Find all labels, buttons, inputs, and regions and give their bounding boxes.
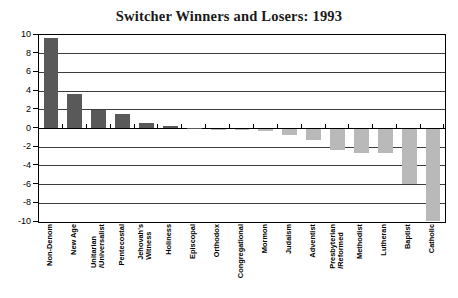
x-axis-label-text: Episcopal [189, 224, 197, 259]
x-axis-label-text: New Age [70, 224, 78, 255]
y-tick-mark [33, 164, 38, 165]
x-tick-mark [420, 124, 421, 128]
gridline-8 [39, 53, 445, 54]
y-tick-label: 8 [0, 48, 34, 58]
x-axis-label-text: Non-Denom [46, 224, 54, 266]
y-tick-label: -2 [0, 141, 34, 151]
x-axis-label: Pentecostal [110, 224, 134, 298]
x-axis-label: New Age [62, 224, 86, 298]
y-tick-mark [33, 71, 38, 72]
y-tick-label: -6 [0, 179, 34, 189]
x-axis-label-text: Baptist [404, 224, 412, 249]
y-tick-mark [33, 202, 38, 203]
bar [139, 123, 154, 129]
y-tick-mark [33, 146, 38, 147]
bar [402, 129, 417, 184]
x-axis-label: Congregational [229, 224, 253, 298]
chart-title: Switcher Winners and Losers: 1993 [0, 8, 458, 25]
x-axis-label: Mormon [253, 224, 277, 298]
x-axis-label: Holiness [157, 224, 181, 298]
x-axis-label-text: Lutheran [380, 224, 388, 256]
x-axis-label-text: Orthodox [213, 224, 221, 257]
x-tick-mark [372, 124, 373, 128]
x-tick-mark [396, 124, 397, 128]
x-axis-label: Episcopal [181, 224, 205, 298]
y-tick-mark [33, 221, 38, 222]
bar [258, 129, 273, 132]
gridline--6 [39, 184, 445, 185]
bar [282, 129, 297, 136]
bar [378, 129, 393, 153]
x-tick-mark [86, 124, 87, 128]
bar [235, 129, 250, 131]
y-tick-label: -8 [0, 197, 34, 207]
y-tick-mark [33, 183, 38, 184]
y-tick-label: -4 [0, 160, 34, 170]
x-tick-mark [443, 124, 444, 128]
x-axis-label-text: Holiness [165, 224, 173, 255]
x-axis-label: Baptist [396, 224, 420, 298]
x-axis-label: Presbyterian /Reformed [325, 224, 349, 298]
x-axis-label: Lutheran [372, 224, 396, 298]
gridline-6 [39, 72, 445, 73]
x-axis: Non-DenomNew AgeUnitarian /UniversalistP… [38, 224, 446, 298]
bar [330, 129, 345, 151]
x-axis-label-text: Methodist [356, 224, 364, 259]
x-tick-mark [301, 124, 302, 128]
plot-area [38, 34, 446, 223]
x-axis-label-text: Catholic [428, 224, 436, 253]
bar [211, 129, 226, 130]
x-tick-mark [110, 124, 111, 128]
x-tick-mark [229, 124, 230, 128]
gridline--8 [39, 203, 445, 204]
x-axis-label-text: Presbyterian /Reformed [328, 224, 344, 269]
y-tick-label: 10 [0, 29, 34, 39]
chart-figure: Switcher Winners and Losers: 1993 108642… [0, 0, 458, 298]
x-axis-label: Unitarian /Universalist [86, 224, 110, 298]
x-tick-mark [277, 124, 278, 128]
bar [354, 129, 369, 153]
bar [44, 38, 59, 129]
x-tick-mark [62, 124, 63, 128]
bar [306, 129, 321, 140]
bar [426, 129, 441, 222]
x-tick-mark [205, 124, 206, 128]
x-axis-label-text: Mormon [261, 224, 269, 253]
gridline-4 [39, 91, 445, 92]
x-axis-label: Orthodox [205, 224, 229, 298]
bar [91, 110, 106, 129]
x-axis-label-text: Adventist [309, 224, 317, 258]
x-tick-mark [325, 124, 326, 128]
x-tick-mark [181, 124, 182, 128]
x-axis-label-text: Jehovah's Witness [137, 224, 153, 260]
x-axis-label-text: Judaism [285, 224, 293, 254]
y-tick-mark [33, 108, 38, 109]
bar [187, 128, 202, 129]
x-axis-label-text: Pentecostal [117, 224, 125, 266]
y-tick-label: 2 [0, 104, 34, 114]
x-axis-label: Methodist [348, 224, 372, 298]
bar [67, 94, 82, 129]
x-tick-mark [157, 124, 158, 128]
x-axis-label-text: Congregational [237, 224, 245, 278]
x-axis-label: Jehovah's Witness [134, 224, 158, 298]
x-tick-mark [253, 124, 254, 128]
y-tick-label: 0 [0, 123, 34, 133]
x-axis-label: Judaism [277, 224, 301, 298]
x-tick-mark [134, 124, 135, 128]
y-axis: 1086420-2-4-6-8-10 [0, 34, 34, 223]
x-tick-mark [38, 124, 39, 128]
x-axis-label: Catholic [420, 224, 444, 298]
y-tick-label: 6 [0, 66, 34, 76]
bar [115, 114, 130, 129]
y-tick-label: 4 [0, 85, 34, 95]
x-axis-label: Non-Denom [38, 224, 62, 298]
x-axis-label: Adventist [301, 224, 325, 298]
bar [163, 126, 178, 128]
y-tick-label: -10 [0, 216, 34, 226]
y-tick-mark [33, 34, 38, 35]
y-tick-mark [33, 90, 38, 91]
gridline--4 [39, 165, 445, 166]
x-tick-mark [348, 124, 349, 128]
y-tick-mark [33, 52, 38, 53]
